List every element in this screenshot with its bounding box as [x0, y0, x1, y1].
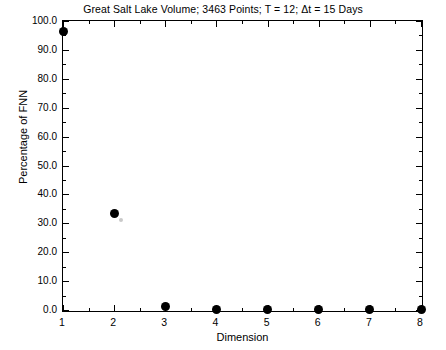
faint-artifact-near-dim-2 — [119, 218, 123, 222]
x-axis-minor-tick-top — [344, 21, 345, 24]
y-axis-major-tick-right — [416, 223, 422, 224]
x-axis-major-tick-top — [114, 21, 115, 27]
y-axis-minor-tick — [63, 151, 66, 152]
x-axis-title: Dimension — [62, 331, 423, 343]
chart-figure: Great Salt Lake Volume; 3463 Points; T =… — [0, 0, 446, 350]
x-axis-tick-label: 7 — [366, 316, 372, 328]
x-axis-tick-label: 6 — [315, 316, 321, 328]
x-axis-tick-label: 8 — [417, 316, 423, 328]
y-axis-tick-label: 0.0 — [43, 304, 57, 315]
data-point — [263, 305, 272, 314]
x-axis-tick-label: 3 — [161, 316, 167, 328]
x-axis-minor-tick — [191, 308, 192, 311]
y-axis-major-tick-right — [416, 166, 422, 167]
data-point — [212, 305, 221, 314]
x-axis-minor-tick-top — [89, 21, 90, 24]
x-axis-minor-tick — [242, 308, 243, 311]
plot-area — [62, 20, 423, 312]
x-axis-major-tick-top — [165, 21, 166, 27]
y-axis-minor-tick-right — [419, 180, 422, 181]
y-axis-tick-label: 50.0 — [38, 159, 57, 170]
data-point — [110, 209, 119, 218]
y-axis-tick-label: 100.0 — [32, 15, 57, 26]
y-axis-major-tick — [63, 252, 69, 253]
x-axis-major-tick — [63, 305, 64, 311]
x-axis-major-tick-top — [268, 21, 269, 27]
x-axis-minor-tick-top — [395, 21, 396, 24]
y-axis-major-tick-right — [416, 108, 422, 109]
x-axis-major-tick-top — [216, 21, 217, 27]
y-axis-minor-tick-right — [419, 296, 422, 297]
y-axis-major-tick — [63, 108, 69, 109]
x-axis-minor-tick — [89, 308, 90, 311]
y-axis-minor-tick — [63, 267, 66, 268]
y-axis-minor-tick-right — [419, 93, 422, 94]
y-axis-major-tick-right — [416, 79, 422, 80]
y-axis-minor-tick — [63, 296, 66, 297]
y-axis-tick-label: 70.0 — [38, 101, 57, 112]
y-axis-minor-tick — [63, 180, 66, 181]
y-axis-minor-tick-right — [419, 238, 422, 239]
y-axis-tick-label: 30.0 — [38, 217, 57, 228]
y-axis-minor-tick-right — [419, 267, 422, 268]
y-axis-major-tick — [63, 281, 69, 282]
y-axis-major-tick — [63, 79, 69, 80]
y-axis-tick-label: 60.0 — [38, 130, 57, 141]
x-axis-tick-label: 1 — [59, 316, 65, 328]
x-axis-minor-tick-top — [140, 21, 141, 24]
x-axis-minor-tick — [344, 308, 345, 311]
y-axis-minor-tick-right — [419, 64, 422, 65]
y-axis-major-tick-right — [416, 194, 422, 195]
y-axis-minor-tick — [63, 64, 66, 65]
y-axis-minor-tick-right — [419, 122, 422, 123]
y-axis-tick-label: 90.0 — [38, 43, 57, 54]
chart-title: Great Salt Lake Volume; 3463 Points; T =… — [0, 3, 446, 15]
y-axis-minor-tick — [63, 93, 66, 94]
y-axis-major-tick — [63, 194, 69, 195]
y-axis-minor-tick-right — [419, 209, 422, 210]
y-axis-major-tick — [63, 137, 69, 138]
x-axis-minor-tick-top — [293, 21, 294, 24]
x-axis-major-tick-top — [421, 21, 422, 27]
y-axis-minor-tick — [63, 238, 66, 239]
data-point — [161, 302, 170, 311]
y-axis-major-tick — [63, 223, 69, 224]
y-axis-major-tick-right — [416, 252, 422, 253]
y-axis-minor-tick — [63, 122, 66, 123]
y-axis-minor-tick-right — [419, 35, 422, 36]
x-axis-tick-label: 5 — [264, 316, 270, 328]
x-axis-major-tick-top — [319, 21, 320, 27]
y-axis-tick-label: 10.0 — [38, 275, 57, 286]
x-axis-minor-tick-top — [242, 21, 243, 24]
y-axis-major-tick — [63, 50, 69, 51]
y-axis-minor-tick — [63, 209, 66, 210]
y-axis-major-tick-right — [416, 137, 422, 138]
x-axis-minor-tick — [293, 308, 294, 311]
y-axis-major-tick — [63, 166, 69, 167]
data-point — [417, 305, 426, 314]
x-axis-tick-label: 4 — [213, 316, 219, 328]
x-axis-minor-tick-top — [191, 21, 192, 24]
y-axis-tick-label: 40.0 — [38, 188, 57, 199]
y-axis-major-tick-right — [416, 50, 422, 51]
y-axis-tick-label: 20.0 — [38, 246, 57, 257]
y-axis-minor-tick-right — [419, 151, 422, 152]
x-axis-minor-tick — [395, 308, 396, 311]
x-axis-major-tick-top — [370, 21, 371, 27]
x-axis-minor-tick — [140, 308, 141, 311]
y-axis-major-tick-right — [416, 281, 422, 282]
x-axis-tick-label: 2 — [110, 316, 116, 328]
data-point — [59, 27, 68, 36]
y-axis-tick-label: 80.0 — [38, 72, 57, 83]
x-axis-major-tick — [114, 305, 115, 311]
y-axis-tick-label-group: 0.010.020.030.040.050.060.070.080.090.01… — [0, 20, 62, 312]
x-axis-tick-label-group: 12345678 — [62, 312, 423, 332]
